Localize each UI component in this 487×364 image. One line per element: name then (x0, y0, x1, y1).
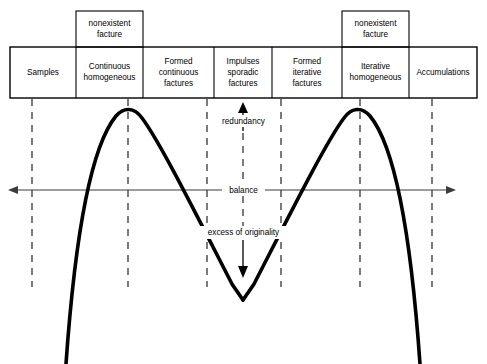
table-cell-accumulations: Accumulations (416, 68, 469, 77)
table-cell-formed-iterative: Formed iterative factures (292, 57, 321, 88)
cell-iterative-line2: homogeneous (350, 73, 402, 82)
cell-formed-iter-line3: factures (292, 79, 321, 88)
axis-arrow-left-icon (8, 186, 18, 194)
diagram-canvas: redundancy balance excess of originality… (0, 0, 487, 364)
superbox-left-rect (76, 11, 143, 47)
cell-continuous-line2: homogeneous (84, 73, 136, 82)
balance-label: balance (229, 186, 258, 195)
cell-samples-line1: Samples (27, 68, 59, 77)
superbox-right-rect (342, 11, 409, 47)
excess-arrow-head-icon (238, 266, 248, 278)
facture-table: Samples Continuous homogeneous Formed co… (10, 47, 477, 98)
table-cell-formed-continuous: Formed continuous factures (159, 57, 199, 88)
cell-formed-iter-line1: Formed (293, 57, 322, 66)
cell-impulses-line2: sporadic (228, 68, 259, 77)
cell-formed-cont-line1: Formed (164, 57, 193, 66)
redundancy-label: redundancy (222, 117, 266, 126)
superbox-right-line1: nonexistent (355, 19, 398, 28)
annotation-balance: balance (222, 184, 265, 196)
table-cell-iterative-homogeneous: Iterative homogeneous (350, 62, 402, 82)
table-cell-impulses-sporadic: Impulses sporadic factures (227, 57, 260, 88)
table-cell-samples: Samples (27, 68, 59, 77)
cell-accumulations-line1: Accumulations (416, 68, 469, 77)
superbox-left: nonexistent facture (76, 11, 143, 47)
axis-arrow-right-icon (446, 186, 456, 194)
cell-iterative-line1: Iterative (361, 62, 391, 71)
superbox-right: nonexistent facture (342, 11, 409, 47)
cell-impulses-line1: Impulses (227, 57, 260, 66)
cell-continuous-line1: Continuous (89, 62, 130, 71)
cell-formed-cont-line3: factures (164, 79, 193, 88)
table-cell-continuous-homogeneous: Continuous homogeneous (84, 62, 136, 82)
superbox-left-line1: nonexistent (89, 19, 132, 28)
excess-label: excess of originality (208, 228, 280, 237)
cell-formed-cont-line2: continuous (159, 68, 199, 77)
cell-impulses-line3: factures (228, 79, 257, 88)
redundancy-arrow-head-icon (238, 102, 248, 113)
superbox-right-line2: facture (363, 30, 388, 39)
cell-formed-iter-line2: iterative (293, 68, 322, 77)
superbox-left-line2: facture (97, 30, 122, 39)
annotation-redundancy: redundancy (215, 115, 272, 127)
excess-arrow (238, 240, 248, 278)
diagram-root: redundancy balance excess of originality… (0, 0, 487, 364)
annotation-excess: excess of originality (189, 226, 299, 239)
